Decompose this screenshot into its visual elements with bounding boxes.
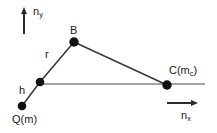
node-C-main: C(m (169, 64, 190, 76)
node-label-C: C(mc) (169, 65, 197, 76)
node-label-B: B (70, 25, 77, 36)
node-C (162, 80, 171, 89)
node-C-subscript: c (190, 69, 194, 78)
diagram-canvas: ny nx B r h Q(m) C(mc) (0, 0, 217, 133)
axis-label-nx: nx (181, 110, 191, 121)
axis-nx-subscript: x (187, 114, 191, 123)
axis-ny-arrow (21, 7, 27, 34)
node-label-Q: Q(m) (12, 114, 37, 125)
node-B (69, 37, 78, 46)
b-c-segment (74, 42, 167, 85)
node-C-close-paren: ) (194, 64, 198, 76)
axis-ny-subscript: y (39, 10, 43, 19)
length-label-r: r (45, 49, 49, 60)
length-label-h: h (19, 85, 25, 96)
node-junction (36, 78, 45, 87)
axis-nx-arrow (167, 100, 198, 106)
node-Q (18, 102, 27, 111)
axis-label-ny: ny (33, 6, 43, 17)
